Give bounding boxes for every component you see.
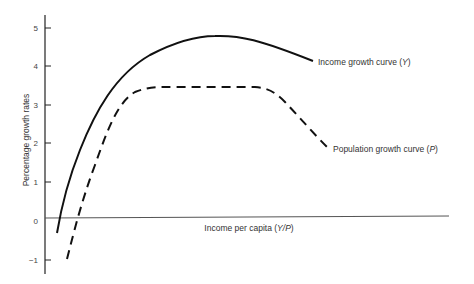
population-curve-label: Population growth curve (P) (333, 144, 438, 154)
tick-label-3: 3 (34, 101, 39, 110)
growth-rates-chart: 5 4 3 2 1 0 −1 Percentage growth rates I… (0, 0, 474, 284)
tick-label-0: 0 (34, 217, 39, 226)
y-axis-label: Percentage growth rates (21, 94, 31, 187)
tick-label-minus-1: −1 (29, 256, 39, 265)
tick-label-5: 5 (34, 24, 39, 33)
income-growth-curve (57, 36, 313, 233)
x-axis (45, 216, 449, 218)
tick-label-1: 1 (34, 178, 39, 187)
x-axis-label: Income per capita (Y/P) (204, 223, 293, 233)
y-ticks (45, 28, 51, 260)
income-curve-label: Income growth curve (Y) (318, 57, 411, 67)
population-growth-curve (67, 87, 328, 259)
tick-label-2: 2 (34, 139, 39, 148)
tick-label-4: 4 (34, 62, 39, 71)
